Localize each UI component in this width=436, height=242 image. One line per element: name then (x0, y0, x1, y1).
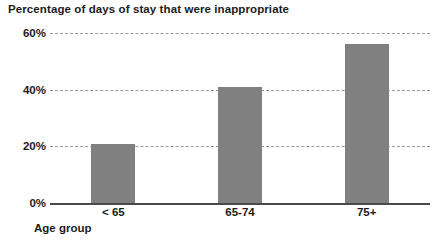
chart-screenshot: Percentage of days of stay that were ina… (0, 0, 436, 242)
x-axis-tick-label: 75+ (303, 206, 430, 218)
y-axis-tick-label: 40% (2, 84, 46, 96)
x-axis-tick-label: < 65 (50, 206, 177, 218)
x-axis-tick-label: 65-74 (177, 206, 304, 218)
bar (218, 87, 262, 203)
y-axis-tick-label: 0% (2, 197, 46, 209)
x-axis-line (50, 203, 430, 205)
gridline (50, 33, 430, 34)
y-axis-tick-label: 60% (2, 27, 46, 39)
x-axis-title: Age group (34, 222, 92, 234)
plot-area: 0%20%40%60% < 6565-7475+ (0, 0, 436, 242)
bar (345, 44, 389, 203)
bar (91, 144, 135, 204)
y-axis-tick-label: 20% (2, 140, 46, 152)
